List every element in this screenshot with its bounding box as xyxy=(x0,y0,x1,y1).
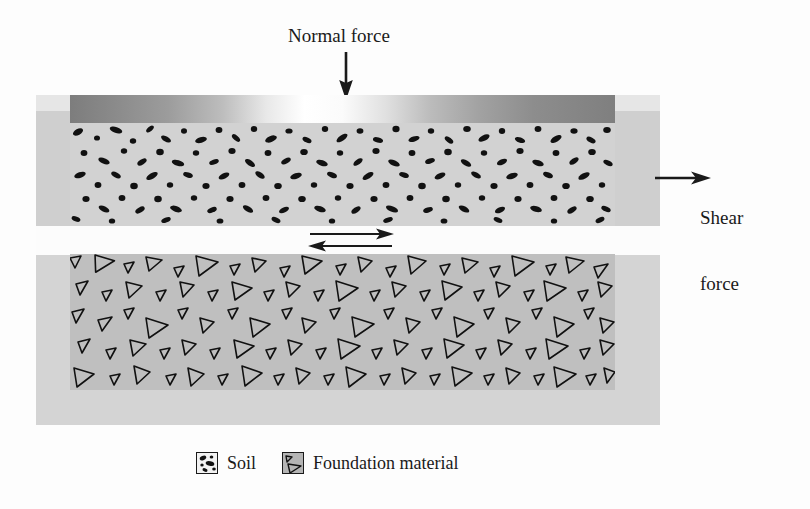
legend-label-foundation: Foundation material xyxy=(313,453,458,474)
legend: Soil Foundation material xyxy=(196,450,458,476)
soil-specimen-block xyxy=(70,123,615,226)
legend-item-foundation: Foundation material xyxy=(282,452,458,474)
shear-plane-double-arrow-icon xyxy=(306,228,398,254)
legend-item-soil: Soil xyxy=(196,452,256,474)
figure-canvas: Normal force xyxy=(0,0,810,509)
legend-label-soil: Soil xyxy=(227,453,256,474)
shear-force-label-line2: force xyxy=(700,273,743,295)
shear-force-label: Shear force xyxy=(700,163,743,339)
loading-plate xyxy=(70,95,615,123)
foundation-swatch-icon xyxy=(282,452,304,474)
soil-swatch-icon xyxy=(196,452,218,474)
soil-texture xyxy=(70,123,615,226)
normal-force-label: Normal force xyxy=(288,25,390,47)
foundation-texture xyxy=(70,254,615,390)
foundation-material-block xyxy=(70,254,615,390)
shear-force-label-line1: Shear xyxy=(700,207,743,229)
